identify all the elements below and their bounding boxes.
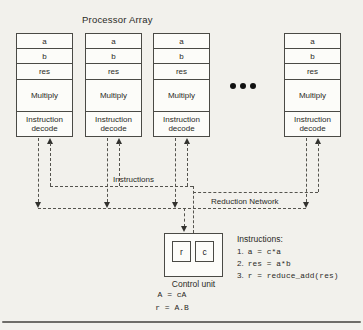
instruction-code: r = reduce_add(res) bbox=[248, 272, 339, 280]
ellipsis-dot bbox=[230, 83, 236, 89]
instruction-decode-unit: Instruction decode bbox=[17, 112, 72, 136]
equation-1: A = cA bbox=[140, 289, 204, 302]
instruction-decode-unit: Instruction decode bbox=[154, 112, 209, 136]
diagram-title: Processor Array bbox=[82, 14, 153, 25]
instructions-bus-label: Instructions bbox=[113, 175, 154, 184]
result-output-line-1 bbox=[38, 138, 39, 202]
instruction-listing-heading: Instructions: bbox=[237, 234, 338, 244]
ellipsis-dot bbox=[250, 83, 256, 89]
instructions-bus-right-segment bbox=[193, 192, 318, 193]
register-a: a bbox=[86, 34, 141, 49]
register-b: b bbox=[17, 49, 72, 64]
processor-box-3: a b res Multiply Instruction decode bbox=[153, 33, 210, 137]
multiply-unit: Multiply bbox=[86, 80, 141, 112]
instruction-listing: Instructions: 1. a = c*a 2. res = a*b 3.… bbox=[237, 234, 338, 283]
instruction-decode-unit: Instruction decode bbox=[86, 112, 141, 136]
instruction-number: 1. bbox=[237, 247, 244, 256]
register-res: res bbox=[86, 64, 141, 80]
register-a: a bbox=[17, 34, 72, 49]
processor-box-1: a b res Multiply Instruction decode bbox=[16, 33, 73, 137]
processor-box-2: a b res Multiply Instruction decode bbox=[85, 33, 142, 137]
register-b: b bbox=[285, 49, 340, 64]
instruction-input-line-1 bbox=[50, 143, 51, 186]
register-r: r bbox=[172, 241, 191, 262]
instruction-line-2: 2. res = a*b bbox=[237, 259, 338, 271]
control-unit-label: Control unit bbox=[164, 279, 223, 289]
ellipsis-dot bbox=[240, 83, 246, 89]
multiply-unit: Multiply bbox=[154, 80, 209, 112]
instruction-decode-unit: Instruction decode bbox=[285, 112, 340, 136]
register-res: res bbox=[285, 64, 340, 80]
register-b: b bbox=[154, 49, 209, 64]
instruction-line-1: 1. a = c*a bbox=[237, 247, 338, 259]
multiply-unit: Multiply bbox=[17, 80, 72, 112]
instruction-line-3: 3. r = reduce_add(res) bbox=[237, 271, 338, 283]
figure-processor-array-diagram: Processor Array a b res Multiply Instruc… bbox=[0, 0, 363, 330]
control-unit-equations: A = cA r = A.B bbox=[140, 289, 204, 314]
register-c: c bbox=[195, 241, 214, 262]
register-b: b bbox=[86, 49, 141, 64]
instruction-code: a = c*a bbox=[248, 248, 281, 256]
register-res: res bbox=[154, 64, 209, 80]
instruction-code: res = a*b bbox=[248, 260, 291, 268]
instruction-input-line-3 bbox=[187, 143, 188, 186]
instruction-number: 2. bbox=[237, 259, 244, 268]
reduction-network-label: Reduction Network bbox=[211, 197, 279, 206]
instruction-input-line-n bbox=[318, 143, 319, 192]
reduction-bus bbox=[38, 208, 306, 209]
register-a: a bbox=[285, 34, 340, 49]
instruction-number: 3. bbox=[237, 271, 244, 280]
instruction-feed-line bbox=[193, 186, 194, 233]
bottom-divider-rule bbox=[2, 321, 361, 323]
control-unit-box: r c bbox=[164, 233, 223, 277]
reduction-feed-line bbox=[184, 208, 185, 227]
multiply-unit: Multiply bbox=[285, 80, 340, 112]
register-a: a bbox=[154, 34, 209, 49]
processor-box-n: a b res Multiply Instruction decode bbox=[284, 33, 341, 137]
register-res: res bbox=[17, 64, 72, 80]
equation-2: r = A.B bbox=[140, 302, 204, 315]
instructions-bus bbox=[50, 186, 193, 187]
arrowhead-down-icon bbox=[181, 226, 187, 232]
result-output-line-3 bbox=[175, 138, 176, 202]
result-output-line-2 bbox=[107, 138, 108, 202]
